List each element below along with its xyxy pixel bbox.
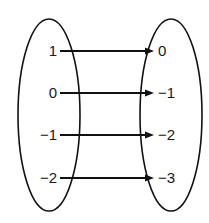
- domain-value-label: 1: [49, 42, 57, 59]
- domain-value-label: −2: [40, 169, 57, 186]
- domain-value-label: −1: [40, 126, 57, 143]
- arrowhead-icon: [145, 132, 154, 139]
- range-value-label: −2: [158, 126, 175, 143]
- range-value-label: −1: [158, 84, 175, 101]
- domain-value-label: 0: [49, 84, 57, 101]
- arrowhead-icon: [145, 175, 154, 182]
- arrowhead-icon: [145, 48, 154, 55]
- arrowhead-icon: [145, 90, 154, 97]
- mapping-diagram: 10−1−20−1−2−3: [0, 0, 209, 223]
- range-value-label: 0: [158, 42, 166, 59]
- range-value-label: −3: [158, 169, 175, 186]
